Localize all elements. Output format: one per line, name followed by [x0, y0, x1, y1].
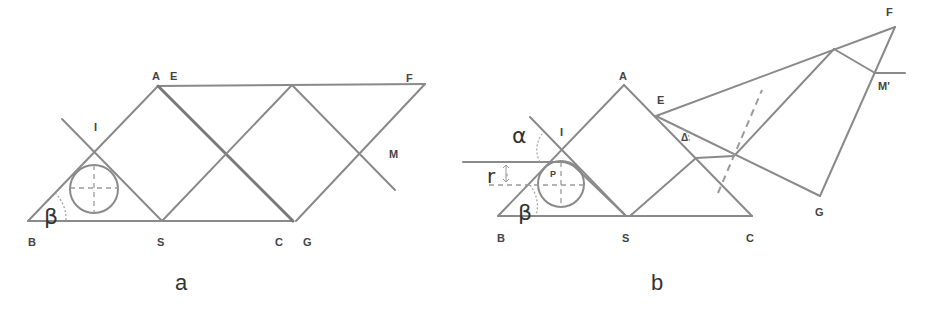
label-s: S	[622, 232, 629, 244]
label-g: G	[815, 206, 824, 218]
label-e: E	[657, 94, 664, 106]
line-s-up	[630, 158, 696, 216]
r-arrow-icon	[503, 165, 509, 182]
line-gf	[296, 84, 425, 221]
label-f: F	[886, 6, 893, 18]
label-b: B	[497, 232, 505, 244]
alpha-arc	[537, 134, 542, 162]
label-a: A	[152, 70, 160, 82]
line-to-m	[834, 49, 875, 73]
inner-line	[734, 49, 834, 156]
label-s: S	[157, 236, 164, 248]
label-c: C	[746, 232, 754, 244]
label-beta: β	[44, 204, 58, 229]
dashed-normal	[718, 90, 762, 193]
label-m-prime: M'	[878, 80, 890, 92]
label-g: G	[303, 236, 312, 248]
label-c: C	[275, 236, 283, 248]
line-through-m	[292, 85, 395, 190]
geometry-figure: A E F I M B S C G β a A E	[0, 0, 925, 313]
figure-b: A E F I P M' B S C G Δ α β r b	[463, 6, 905, 295]
label-i: I	[560, 126, 563, 138]
side-ba	[28, 86, 158, 221]
label-i: I	[94, 121, 97, 133]
label-r: r	[487, 164, 496, 188]
refracted-ray	[560, 162, 626, 216]
caption-a: a	[175, 270, 188, 295]
label-b: B	[28, 236, 36, 248]
label-a: A	[619, 70, 627, 82]
figure-a: A E F I M B S C G β a	[28, 70, 425, 295]
line-eg	[656, 116, 820, 196]
label-p: P	[550, 169, 556, 179]
caption-b: b	[651, 270, 663, 295]
label-m: M	[389, 148, 398, 160]
line-ef	[656, 27, 895, 116]
label-delta: Δ	[681, 132, 688, 143]
label-e: E	[170, 70, 177, 82]
label-alpha: α	[512, 123, 527, 148]
short-horizontal	[696, 156, 734, 158]
label-beta: β	[518, 200, 532, 225]
label-f: F	[406, 72, 413, 84]
